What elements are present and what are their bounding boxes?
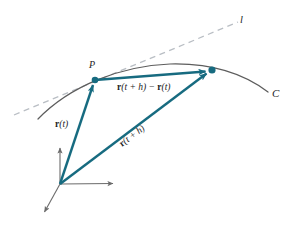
secant-label-mid: (t + h) −: [121, 82, 157, 93]
secant-vector: [95, 72, 206, 81]
point-p-label: P: [88, 59, 95, 70]
point-q-dot: [208, 66, 215, 73]
secant-label-rest: (t): [161, 82, 170, 93]
vector-diagram-figure: l C P r(t) r(t + h) − r(t) r(t + h): [0, 0, 294, 225]
secant-vector-label: r(t + h) − r(t): [117, 82, 170, 93]
vector-rt-label: r(t): [55, 119, 68, 130]
coordinate-axes: [45, 148, 114, 212]
x-axis: [60, 184, 113, 185]
tangent-line-l: [14, 22, 238, 115]
vector-diagram-canvas: l C P r(t) r(t + h) − r(t) r(t + h): [0, 0, 294, 225]
vector-rth-label: r(t + h): [117, 123, 147, 149]
vector-rt-label-rest: (t): [59, 119, 68, 130]
vector-rth-label-rest: (t + h): [121, 123, 147, 147]
tangent-line-label: l: [240, 14, 243, 25]
z-axis: [45, 184, 61, 212]
vector-rt: [60, 85, 93, 184]
curve-label: C: [272, 87, 280, 99]
point-p-dot: [92, 77, 99, 84]
